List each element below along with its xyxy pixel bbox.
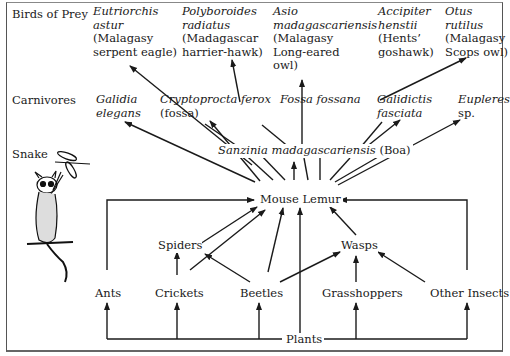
ants-node: Ants bbox=[95, 287, 121, 301]
grasshoppers-node: Grasshoppers bbox=[322, 287, 403, 301]
other-insects-node: Other Insects bbox=[430, 287, 509, 301]
bird-accipiter: Accipiter henstii (Hents’ goshawk) bbox=[378, 5, 434, 59]
bird-otus: Otus rutilus (Malagasy Scops owl) bbox=[445, 5, 508, 59]
mouse-lemur-node: Mouse Lemur bbox=[258, 193, 343, 207]
crickets-node: Crickets bbox=[155, 287, 204, 301]
bird-eutriorchis: Eutriorchis astur (Malagasy serpent eagl… bbox=[93, 5, 177, 59]
carnivore-eupleres: Eupleres sp. bbox=[458, 93, 510, 120]
mouse-lemur-illustration-icon bbox=[25, 150, 95, 285]
spiders-node: Spiders bbox=[158, 239, 202, 253]
carnivore-galidia: Galidia elegans bbox=[96, 93, 141, 120]
bird-polyboroides: Polyboroides radiatus (Madagascar harrie… bbox=[182, 5, 263, 59]
bird-asio: Asio madagascariensis (Malagasy Long-ear… bbox=[273, 5, 377, 73]
level-label-carnivores: Carnivores bbox=[12, 94, 76, 108]
carnivore-cryptoprocta: Cryptoprocta ferox (fossa) bbox=[160, 93, 271, 120]
wasps-node: Wasps bbox=[341, 239, 378, 253]
snake-boa: Sanzinia madagascariensis (Boa) bbox=[216, 144, 413, 158]
plants-node: Plants bbox=[284, 333, 324, 347]
carnivore-fossa: Fossa fossana bbox=[280, 93, 361, 107]
carnivore-galidictis: Galidictis fasciata bbox=[377, 93, 432, 120]
beetles-node: Beetles bbox=[240, 287, 283, 301]
level-label-birds: Birds of Prey bbox=[12, 8, 88, 22]
